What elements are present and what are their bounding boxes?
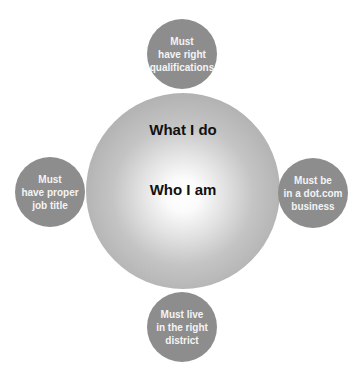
central-circle: What I do Who I am: [86, 93, 280, 289]
satellite-left-job-title: Must have proper job title: [15, 157, 85, 227]
satellite-label: Must be in a dot.com business: [284, 174, 343, 213]
what-i-do-label: What I do: [86, 121, 280, 138]
who-i-am-label: Who I am: [86, 181, 280, 198]
satellite-label: Must have right qualifications: [150, 35, 214, 74]
satellite-right-dotcom: Must be in a dot.com business: [278, 158, 348, 228]
satellite-top-qualifications: Must have right qualifications: [147, 19, 217, 89]
satellite-bottom-district: Must live in the right district: [147, 292, 217, 362]
satellite-label: Must live in the right district: [156, 308, 208, 347]
satellite-label: Must have proper job title: [21, 173, 78, 212]
